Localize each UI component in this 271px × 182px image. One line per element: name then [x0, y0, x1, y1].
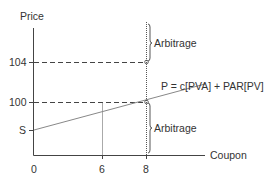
upper-arbitrage-brace-icon — [148, 24, 152, 61]
tick-label-8: 8 — [143, 164, 149, 175]
arbitrage-lower-label: Arbitrage — [154, 123, 197, 134]
equation-label: P = c[PVA] + PAR[PV] — [161, 81, 264, 92]
tick-label-104: 104 — [9, 57, 27, 68]
lower-arbitrage-brace-icon — [148, 103, 152, 153]
x-axis-label: Coupon — [210, 150, 247, 161]
tick-label-s: S — [19, 125, 26, 136]
tick-label-0: 0 — [31, 164, 37, 175]
tick-label-6: 6 — [99, 164, 105, 175]
tick-label-100: 100 — [9, 97, 27, 108]
y-axis-label: Price — [20, 11, 44, 22]
arbitrage-upper-label: Arbitrage — [154, 38, 197, 49]
